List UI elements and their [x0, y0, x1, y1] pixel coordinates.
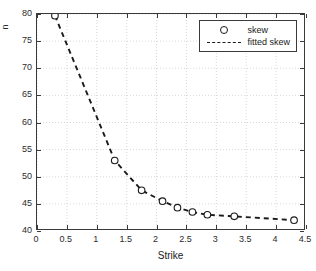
- x-tick: [216, 225, 217, 229]
- y-tick: [37, 231, 41, 232]
- x-tick-label: 1: [93, 234, 98, 244]
- y-tick: [37, 14, 41, 15]
- legend: skew fitted skew: [199, 20, 297, 52]
- x-tick: [97, 14, 98, 18]
- x-tick: [216, 14, 217, 18]
- x-tick-label: 2: [153, 234, 158, 244]
- y-tick: [300, 123, 304, 124]
- x-tick: [246, 225, 247, 229]
- x-tick-label: 2.5: [179, 234, 192, 244]
- legend-item-skew: skew: [204, 24, 290, 36]
- y-tick-label: 60: [14, 117, 32, 127]
- y-tick-label: 40: [14, 225, 32, 235]
- x-tick-label: 4.5: [299, 234, 312, 244]
- y-axis-label-fragment: n: [0, 20, 22, 34]
- y-tick: [300, 14, 304, 15]
- y-tick: [37, 150, 41, 151]
- x-tick: [97, 225, 98, 229]
- y-tick-label: 65: [14, 89, 32, 99]
- circle-marker-icon: [204, 26, 244, 34]
- y-tick: [37, 204, 41, 205]
- y-tick-label: 50: [14, 171, 32, 181]
- x-tick: [276, 225, 277, 229]
- x-tick: [37, 225, 38, 229]
- x-tick: [186, 225, 187, 229]
- x-tick-label: 0.5: [60, 234, 73, 244]
- figure: n skew fitted skew 00.511.522.533.544.5 …: [0, 0, 316, 271]
- x-tick: [157, 14, 158, 18]
- x-tick: [246, 14, 247, 18]
- x-tick: [67, 14, 68, 18]
- y-tick-label: 80: [14, 8, 32, 18]
- y-tick: [37, 68, 41, 69]
- dashed-line-icon: [204, 42, 244, 43]
- x-tick-label: 4: [273, 234, 278, 244]
- x-tick: [186, 14, 187, 18]
- x-tick-label: 1.5: [119, 234, 132, 244]
- y-tick: [300, 95, 304, 96]
- y-tick: [300, 41, 304, 42]
- legend-item-fitted-skew: fitted skew: [204, 36, 290, 48]
- x-axis-label: Strike: [36, 250, 305, 261]
- x-tick: [127, 225, 128, 229]
- y-tick: [37, 95, 41, 96]
- x-tick: [127, 14, 128, 18]
- legend-label: fitted skew: [244, 37, 290, 47]
- plot-axes: skew fitted skew: [36, 13, 305, 230]
- x-tick-label: 3: [213, 234, 218, 244]
- x-tick: [157, 225, 158, 229]
- y-tick: [37, 123, 41, 124]
- y-tick: [300, 68, 304, 69]
- x-tick-label: 3.5: [239, 234, 252, 244]
- x-tick-label: 0: [33, 234, 38, 244]
- y-tick-label: 70: [14, 62, 32, 72]
- y-tick-label: 75: [14, 35, 32, 45]
- y-tick: [300, 177, 304, 178]
- x-tick: [276, 14, 277, 18]
- y-tick-label: 45: [14, 198, 32, 208]
- legend-label: skew: [244, 25, 268, 35]
- y-tick: [300, 231, 304, 232]
- x-tick: [306, 14, 307, 18]
- y-tick: [300, 150, 304, 151]
- x-tick: [306, 225, 307, 229]
- y-tick-label: 55: [14, 144, 32, 154]
- y-tick: [37, 41, 41, 42]
- x-tick: [67, 225, 68, 229]
- y-tick: [300, 204, 304, 205]
- y-tick: [37, 177, 41, 178]
